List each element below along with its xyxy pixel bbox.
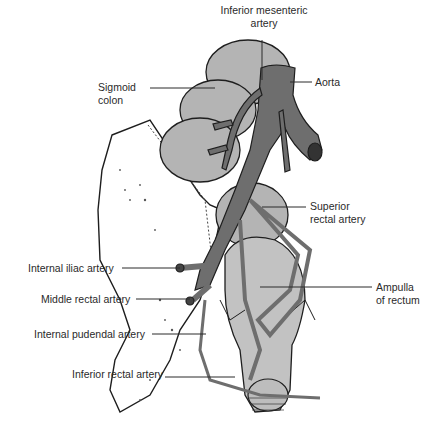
label-line: of rectum (376, 294, 420, 307)
illustration (0, 0, 442, 428)
anatomy-diagram: Inferior mesenteric artery Aorta Sigmoid… (0, 0, 442, 428)
label-line: Sigmoid (98, 81, 136, 94)
label-inferior-mesenteric-artery: Inferior mesenteric artery (212, 4, 316, 30)
label-line: Ampulla (376, 281, 420, 294)
label-ampulla-of-rectum: Ampulla of rectum (376, 281, 420, 307)
label-superior-rectal-artery: Superior rectal artery (310, 200, 365, 226)
label-line: colon (98, 94, 136, 107)
label-line: artery (212, 17, 316, 30)
label-line: rectal artery (310, 213, 365, 226)
label-internal-iliac-artery: Internal iliac artery (28, 262, 114, 275)
label-sigmoid-colon: Sigmoid colon (98, 81, 136, 107)
label-inferior-rectal-artery: Inferior rectal artery (72, 368, 163, 381)
label-middle-rectal-artery: Middle rectal artery (41, 293, 130, 306)
label-aorta: Aorta (315, 76, 340, 89)
label-internal-pudendal-artery: Internal pudendal artery (34, 328, 145, 341)
label-line: Inferior mesenteric (212, 4, 316, 17)
label-line: Superior (310, 200, 365, 213)
